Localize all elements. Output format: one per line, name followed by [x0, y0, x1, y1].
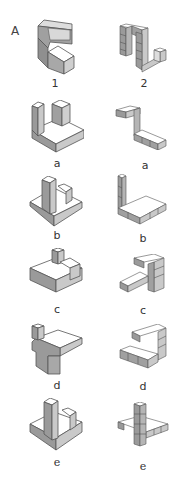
shape-e-solid [28, 398, 84, 452]
caption-2: 2 [134, 77, 154, 90]
caption-a-right: a [135, 159, 155, 172]
caption-e-left: e [47, 456, 67, 469]
caption-d-right: d [133, 380, 153, 393]
caption-1: 1 [45, 77, 65, 90]
caption-b-right: b [133, 232, 153, 245]
shape-d-cubes [118, 324, 168, 374]
shape-b-cubes [116, 174, 168, 226]
caption-a-left: a [47, 157, 67, 170]
shape-c-cubes [118, 254, 168, 296]
shape-1-solid [34, 18, 80, 76]
shape-a-solid [28, 100, 84, 156]
shape-2-cubes [118, 22, 168, 76]
shape-b-solid [28, 176, 84, 230]
caption-c-left: c [47, 303, 67, 316]
caption-b-left: b [47, 229, 67, 242]
panel-label: A [11, 24, 19, 38]
caption-d-left: d [47, 379, 67, 392]
shape-e-cubes [116, 402, 170, 450]
caption-c-right: c [133, 304, 153, 317]
shape-c-solid [28, 248, 84, 300]
shape-a-cubes [114, 104, 170, 150]
shape-d-solid [28, 322, 84, 378]
caption-e-right: e [133, 460, 153, 473]
